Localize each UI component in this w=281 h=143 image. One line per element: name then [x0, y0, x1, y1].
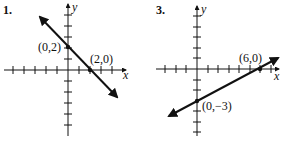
- point-label-2-0: (2,0): [90, 52, 113, 66]
- point-label-6-0: (6,0): [239, 51, 262, 65]
- chart-1: 1. x y: [3, 0, 129, 136]
- y-axis-label: y: [200, 2, 207, 16]
- y-axis-label: y: [71, 0, 78, 14]
- chart-3: 3. x y: [156, 2, 280, 136]
- point-2-0: [88, 68, 92, 72]
- x-axis-label: x: [122, 68, 129, 82]
- point-0-2: [66, 45, 70, 49]
- graphs-figure: 1. x y: [0, 0, 281, 143]
- point-label-0-neg3: (0,−3): [202, 99, 232, 113]
- x-axis-label: x: [273, 69, 280, 83]
- point-label-0-2: (0,2): [38, 40, 61, 54]
- chart-3-number: 3.: [156, 3, 165, 17]
- point-0-neg3: [195, 99, 199, 103]
- point-6-0: [258, 67, 262, 71]
- chart-1-number: 1.: [3, 3, 12, 17]
